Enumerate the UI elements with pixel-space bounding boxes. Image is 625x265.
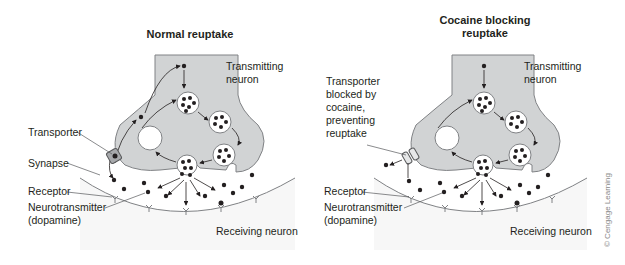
label-neurotransmitter: Neurotransmitter (dopamine) bbox=[28, 201, 106, 227]
label-neurotransmitter: Neurotransmitter (dopamine) bbox=[324, 201, 402, 227]
label-transmitting-neuron: Transmitting neuron bbox=[524, 60, 581, 86]
label-receptor: Receptor bbox=[28, 185, 71, 198]
label-receiving-neuron: Receiving neuron bbox=[510, 225, 592, 238]
title-normal-reuptake: Normal reuptake bbox=[145, 28, 235, 41]
label-transporter-blocked: Transporter blocked by cocaine, preventi… bbox=[326, 75, 380, 140]
label-synapse: Synapse bbox=[28, 157, 69, 170]
label-transmitting-neuron: Transmitting neuron bbox=[226, 60, 283, 86]
label-receiving-neuron: Receiving neuron bbox=[216, 225, 298, 238]
credit-text: © Cengage Learning bbox=[603, 173, 612, 247]
label-transporter: Transporter bbox=[28, 126, 82, 139]
title-cocaine-blocking: Cocaine blocking reuptake bbox=[430, 14, 540, 40]
panel-cocaine-blocking: Cocaine blocking reuptake Transmitting n… bbox=[312, 0, 625, 265]
label-receptor: Receptor bbox=[324, 185, 367, 198]
panel-normal-reuptake: Normal reuptake Transmitting neuron Tran… bbox=[0, 0, 312, 265]
